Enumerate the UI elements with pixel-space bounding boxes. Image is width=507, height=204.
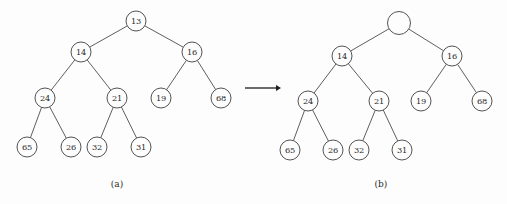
node-label: 19 — [416, 96, 426, 106]
tree-edge — [348, 64, 372, 94]
node-label: 68 — [216, 93, 226, 103]
tree-node[interactable]: 24 — [298, 91, 318, 111]
tree-edge — [87, 60, 111, 90]
tree-node[interactable]: 19 — [411, 91, 431, 111]
tree-node[interactable]: 32 — [349, 140, 369, 160]
tree-node[interactable]: 14 — [71, 42, 91, 62]
node-circle — [388, 12, 411, 35]
binary-tree-figure: 1314162421196865263231(a) 14162421196865… — [0, 0, 507, 204]
tree-edge — [101, 107, 113, 137]
node-label: 13 — [131, 16, 141, 26]
tree-edge — [409, 29, 444, 51]
node-label: 31 — [397, 145, 407, 155]
panel-a: 1314162421196865263231(a) — [17, 11, 231, 189]
tree-node[interactable]: 68 — [472, 91, 492, 111]
tree-node[interactable]: 32 — [87, 137, 107, 157]
tree-node[interactable]: 21 — [107, 88, 127, 108]
node-label: 19 — [156, 93, 166, 103]
node-label: 26 — [66, 142, 76, 152]
tree-edge — [383, 110, 398, 141]
tree-edge — [458, 64, 477, 92]
tree-edge — [351, 29, 389, 51]
tree-edge — [363, 110, 375, 140]
tree-edge — [90, 26, 128, 47]
node-label: 14 — [337, 51, 347, 61]
panel-caption: (a) — [111, 179, 123, 189]
tree-edge — [167, 60, 187, 89]
node-label: 16 — [447, 51, 457, 61]
transition-arrow — [245, 85, 281, 91]
tree-node[interactable]: 14 — [332, 46, 352, 66]
tree-node[interactable]: 26 — [61, 137, 81, 157]
tree-node[interactable]: 16 — [182, 42, 202, 62]
tree-edge — [121, 107, 136, 138]
panel-caption: (b) — [375, 179, 388, 189]
tree-node[interactable]: 21 — [369, 91, 389, 111]
tree-node-empty[interactable] — [388, 12, 411, 35]
tree-node[interactable]: 31 — [131, 137, 151, 157]
node-label: 21 — [112, 93, 122, 103]
tree-edge — [427, 64, 447, 93]
figure-canvas: 1314162421196865263231(a) 14162421196865… — [0, 0, 507, 204]
tree-node[interactable]: 31 — [392, 140, 412, 160]
node-label: 65 — [285, 145, 295, 155]
node-label: 26 — [328, 145, 338, 155]
panel-b: 14162421196865263231(b) — [280, 12, 492, 190]
node-label: 24 — [40, 93, 50, 103]
tree-node[interactable]: 65 — [280, 140, 300, 160]
node-label: 32 — [354, 145, 364, 155]
node-label: 32 — [92, 142, 102, 152]
tree-node[interactable]: 13 — [126, 11, 146, 31]
tree-edge — [30, 107, 41, 137]
tree-node[interactable]: 26 — [323, 140, 343, 160]
tree-edge — [197, 60, 215, 89]
tree-node[interactable]: 24 — [35, 88, 55, 108]
node-label: 65 — [22, 142, 32, 152]
arrow-head — [276, 85, 281, 91]
node-label: 16 — [187, 47, 197, 57]
tree-edge — [50, 107, 67, 138]
tree-node[interactable]: 19 — [151, 88, 171, 108]
tree-edge — [314, 64, 336, 93]
node-label: 21 — [374, 96, 384, 106]
node-label: 31 — [136, 142, 146, 152]
tree-node[interactable]: 16 — [442, 46, 462, 66]
node-label: 24 — [303, 96, 313, 106]
node-label: 14 — [76, 47, 86, 57]
node-label: 68 — [477, 96, 487, 106]
tree-edge — [145, 26, 184, 47]
tree-node[interactable]: 65 — [17, 137, 37, 157]
tree-edge — [293, 110, 304, 140]
tree-edge — [313, 110, 329, 141]
tree-node[interactable]: 68 — [211, 88, 231, 108]
tree-edge — [51, 60, 75, 90]
